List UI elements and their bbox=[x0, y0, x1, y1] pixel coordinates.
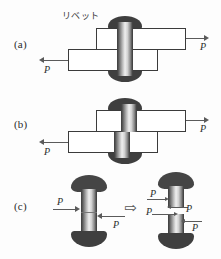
force-label-right-a: P bbox=[200, 41, 206, 52]
force-label-c-left-upper: P bbox=[57, 196, 63, 207]
force-label-c-left-lower: P bbox=[113, 219, 119, 230]
force-arrow-c-right-in-line bbox=[101, 216, 125, 217]
force-arrow-c-right-upper-left-line bbox=[147, 199, 167, 200]
force-arrow-left-line-a bbox=[44, 60, 68, 61]
force-arrow-c-right-lower-left-head bbox=[174, 212, 178, 216]
force-arrow-c-left-in-line bbox=[53, 209, 77, 210]
implies-arrow-icon: ⇨ bbox=[124, 199, 137, 217]
panel-label-c: (c) bbox=[14, 200, 27, 212]
force-arrow-left-head-b bbox=[39, 139, 44, 145]
force-arrow-c-right-in-head bbox=[97, 213, 102, 219]
force-label-c-right-2: P bbox=[186, 203, 192, 214]
rivet-shaft-upper-sheared-b bbox=[121, 104, 137, 132]
shear-plane-line-c-left bbox=[81, 212, 97, 213]
force-arrow-right-line-a bbox=[186, 38, 206, 39]
rivet-shaft-a bbox=[117, 22, 133, 76]
force-arrow-c-left-in-head bbox=[75, 206, 80, 212]
force-arrow-c-right-lower-left-line bbox=[152, 214, 176, 215]
rivet-shaft-lower-sheared-b bbox=[114, 132, 130, 158]
rivet-shear-figure: (a) リベット P P (b) P P (c) P P ⇨ bbox=[0, 0, 221, 259]
lower-plate-b bbox=[68, 131, 158, 153]
rivet-head-bottom-c-left bbox=[71, 231, 107, 247]
force-arrow-left-line-b bbox=[44, 142, 68, 143]
force-label-c-right-3: P bbox=[146, 206, 152, 217]
panel-label-a: (a) bbox=[14, 38, 27, 50]
force-label-left-b: P bbox=[44, 146, 50, 157]
upper-plate-b bbox=[96, 110, 186, 132]
force-label-c-right-4: P bbox=[192, 222, 198, 233]
force-arrow-right-line-b bbox=[186, 120, 206, 121]
panel-label-b: (b) bbox=[14, 118, 27, 130]
upper-plate-a bbox=[96, 28, 186, 50]
rivet-head-bottom-c-right bbox=[158, 233, 194, 249]
rivet-shaft-c-left bbox=[81, 189, 97, 237]
force-label-right-b: P bbox=[200, 123, 206, 134]
force-arrow-c-right-lower-right-head bbox=[181, 219, 185, 223]
force-label-c-right-1: P bbox=[150, 188, 156, 199]
force-label-left-a: P bbox=[44, 64, 50, 75]
force-arrow-c-right-upper-right-head bbox=[167, 205, 171, 209]
rivet-annotation-label: リベット bbox=[62, 9, 99, 22]
force-arrow-left-head-a bbox=[39, 57, 44, 63]
force-arrow-c-right-upper-left-head bbox=[165, 197, 169, 201]
lower-plate-a bbox=[68, 49, 158, 71]
